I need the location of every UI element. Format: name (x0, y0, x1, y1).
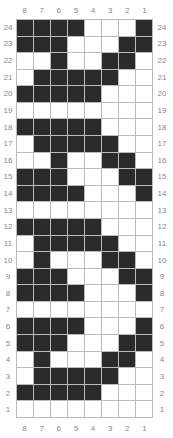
empty-cell (17, 202, 33, 218)
row-label: 13 (0, 202, 16, 219)
filled-cell (68, 368, 84, 384)
empty-cell (136, 103, 152, 119)
filled-cell (34, 37, 50, 53)
filled-cell (85, 368, 101, 384)
column-label: 4 (85, 424, 102, 433)
empty-cell (68, 269, 84, 285)
filled-cell (136, 20, 152, 36)
empty-cell (51, 202, 67, 218)
empty-cell (136, 368, 152, 384)
filled-cell (17, 318, 33, 334)
filled-cell (51, 169, 67, 185)
empty-cell (68, 153, 84, 169)
row-label: 16 (0, 152, 16, 169)
empty-cell (85, 335, 101, 351)
filled-cell (51, 335, 67, 351)
filled-cell (34, 86, 50, 102)
filled-cell (85, 70, 101, 86)
empty-cell (119, 20, 135, 36)
filled-cell (17, 169, 33, 185)
empty-cell (85, 252, 101, 268)
column-label: 6 (50, 6, 67, 15)
row-label: 2 (154, 385, 170, 402)
empty-cell (119, 368, 135, 384)
empty-cell (136, 401, 152, 417)
filled-cell (68, 318, 84, 334)
filled-cell (119, 269, 135, 285)
empty-cell (136, 86, 152, 102)
empty-cell (17, 401, 33, 417)
row-label: 1 (0, 401, 16, 418)
empty-cell (136, 119, 152, 135)
column-label: 6 (50, 424, 67, 433)
row-label: 9 (154, 268, 170, 285)
empty-cell (17, 136, 33, 152)
filled-cell (17, 269, 33, 285)
filled-cell (85, 86, 101, 102)
filled-cell (17, 86, 33, 102)
row-labels-left: 242322212019181716151413121110987654321 (0, 19, 16, 418)
empty-cell (51, 252, 67, 268)
row-label: 22 (0, 52, 16, 69)
filled-cell (51, 219, 67, 235)
empty-cell (34, 202, 50, 218)
empty-cell (85, 37, 101, 53)
filled-cell (51, 70, 67, 86)
row-label: 21 (0, 69, 16, 86)
empty-cell (136, 302, 152, 318)
filled-cell (34, 368, 50, 384)
filled-cell (136, 269, 152, 285)
filled-cell (51, 318, 67, 334)
row-label: 17 (154, 135, 170, 152)
empty-cell (34, 53, 50, 69)
empty-cell (102, 169, 118, 185)
empty-cell (68, 401, 84, 417)
filled-cell (51, 153, 67, 169)
filled-cell (119, 37, 135, 53)
filled-cell (68, 20, 84, 36)
empty-cell (136, 352, 152, 368)
filled-cell (68, 186, 84, 202)
filled-cell (102, 153, 118, 169)
row-label: 17 (0, 135, 16, 152)
empty-cell (51, 302, 67, 318)
row-label: 23 (0, 36, 16, 53)
empty-cell (17, 153, 33, 169)
filled-cell (51, 236, 67, 252)
empty-cell (68, 352, 84, 368)
empty-cell (85, 302, 101, 318)
row-label: 8 (0, 285, 16, 302)
column-labels-top: 87654321 (16, 6, 153, 15)
filled-cell (85, 236, 101, 252)
column-label: 5 (67, 6, 84, 15)
filled-cell (51, 119, 67, 135)
row-label: 20 (0, 86, 16, 103)
filled-cell (68, 285, 84, 301)
filled-cell (51, 20, 67, 36)
empty-cell (102, 269, 118, 285)
filled-cell (51, 37, 67, 53)
empty-cell (85, 169, 101, 185)
empty-cell (85, 20, 101, 36)
empty-cell (119, 401, 135, 417)
filled-cell (34, 318, 50, 334)
empty-cell (102, 86, 118, 102)
empty-cell (68, 252, 84, 268)
filled-cell (34, 385, 50, 401)
filled-cell (102, 368, 118, 384)
empty-cell (85, 285, 101, 301)
filled-cell (119, 252, 135, 268)
empty-cell (85, 269, 101, 285)
filled-cell (51, 368, 67, 384)
filled-cell (85, 385, 101, 401)
filled-cell (102, 352, 118, 368)
empty-cell (17, 236, 33, 252)
filled-cell (136, 37, 152, 53)
empty-cell (68, 103, 84, 119)
filled-cell (102, 252, 118, 268)
row-label: 18 (154, 119, 170, 136)
row-label: 18 (0, 119, 16, 136)
filled-cell (85, 219, 101, 235)
filled-cell (68, 119, 84, 135)
column-label: 7 (33, 6, 50, 15)
